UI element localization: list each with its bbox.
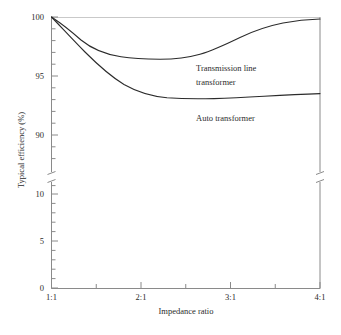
annotation-transmission-line-1: Transmission line <box>196 63 257 73</box>
x-tick-label-3-1: 3:1 <box>225 292 236 302</box>
annotation-transmission-line-2: transformer <box>196 77 236 87</box>
y-tick-label-95: 95 <box>36 71 45 81</box>
y-tick-label-100: 100 <box>31 12 44 22</box>
x-tick-label-2-1: 2:1 <box>136 292 147 302</box>
efficiency-vs-impedance-ratio-chart: 100 95 90 10 5 0 1:1 2:1 3:1 4:1 Impedan… <box>0 0 341 335</box>
y-axis-title: Typical efficiency (%) <box>16 112 26 188</box>
x-tick-label-4-1: 4:1 <box>315 292 326 302</box>
x-tick-label-1-1: 1:1 <box>46 292 57 302</box>
annotation-auto-transformer: Auto transformer <box>196 113 255 123</box>
y-tick-label-90: 90 <box>36 130 45 140</box>
y-tick-label-0: 0 <box>40 283 44 293</box>
y-tick-label-5: 5 <box>40 236 44 246</box>
chart-figure: 100 95 90 10 5 0 1:1 2:1 3:1 4:1 Impedan… <box>0 0 341 335</box>
y-tick-label-10: 10 <box>36 189 45 199</box>
x-axis-title: Impedance ratio <box>159 306 214 316</box>
